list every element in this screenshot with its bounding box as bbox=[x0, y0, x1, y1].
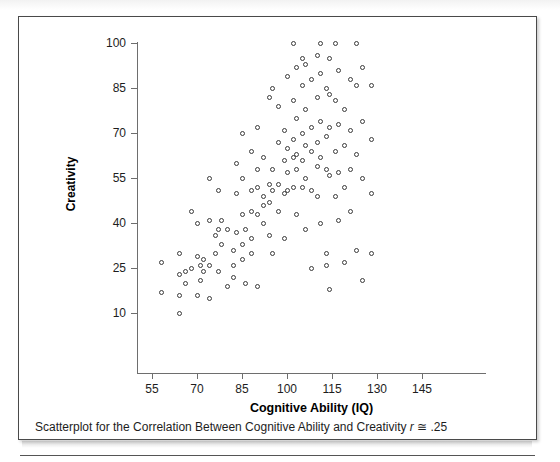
data-point bbox=[336, 218, 341, 223]
data-point bbox=[267, 233, 272, 238]
page-divider-rule bbox=[20, 455, 535, 456]
data-point bbox=[354, 83, 359, 88]
data-point bbox=[336, 170, 341, 175]
data-point bbox=[282, 236, 287, 241]
data-point bbox=[300, 185, 305, 190]
data-point bbox=[291, 98, 296, 103]
data-point bbox=[303, 62, 308, 67]
y-axis-line bbox=[137, 42, 138, 374]
x-tick-85 bbox=[242, 373, 243, 379]
y-tick-label-55: 55 bbox=[113, 171, 126, 186]
data-point bbox=[177, 251, 182, 256]
data-point bbox=[231, 263, 236, 268]
data-point bbox=[207, 263, 212, 268]
page-top-band bbox=[0, 0, 560, 10]
y-tick-label-25: 25 bbox=[113, 261, 126, 276]
data-point bbox=[267, 200, 272, 205]
x-tick-115 bbox=[332, 373, 333, 379]
x-tick-100 bbox=[287, 373, 288, 379]
data-point bbox=[354, 248, 359, 253]
data-point bbox=[216, 269, 221, 274]
data-point bbox=[270, 188, 275, 193]
data-point bbox=[249, 209, 254, 214]
data-point bbox=[348, 77, 353, 82]
data-point bbox=[327, 56, 332, 61]
data-point bbox=[285, 74, 290, 79]
caption-text: Scatterplot for the Correlation Between … bbox=[35, 420, 410, 434]
data-point bbox=[300, 56, 305, 61]
data-point bbox=[177, 272, 182, 277]
data-point bbox=[195, 293, 200, 298]
data-point bbox=[177, 293, 182, 298]
data-point bbox=[201, 269, 206, 274]
data-point bbox=[216, 188, 221, 193]
data-point bbox=[276, 182, 281, 187]
data-point bbox=[240, 212, 245, 217]
data-point bbox=[219, 218, 224, 223]
x-tick-55 bbox=[152, 373, 153, 379]
x-axis-line bbox=[137, 373, 486, 374]
data-point bbox=[294, 152, 299, 157]
data-point bbox=[324, 251, 329, 256]
x-tick-145 bbox=[422, 373, 423, 379]
data-point bbox=[231, 248, 236, 253]
data-point bbox=[240, 176, 245, 181]
caption-approx-symbol: ≅ bbox=[414, 420, 431, 434]
data-point bbox=[213, 233, 218, 238]
data-point bbox=[267, 95, 272, 100]
data-point bbox=[249, 188, 254, 193]
figure-page: 102540557085100 557085100115130145 Creat… bbox=[0, 0, 560, 462]
figure-caption: Scatterplot for the Correlation Between … bbox=[35, 418, 525, 436]
x-axis-title: Cognitive Ability (IQ) bbox=[137, 401, 486, 415]
data-point bbox=[207, 176, 212, 181]
data-point bbox=[360, 65, 365, 70]
data-point bbox=[360, 119, 365, 124]
data-point bbox=[291, 185, 296, 190]
data-point bbox=[327, 125, 332, 130]
y-tick-label-10: 10 bbox=[113, 306, 126, 321]
scatterplot: 102540557085100 557085100115130145 Creat… bbox=[19, 17, 538, 441]
data-point bbox=[336, 68, 341, 73]
data-point bbox=[315, 194, 320, 199]
data-point bbox=[240, 242, 245, 247]
x-tick-130 bbox=[377, 373, 378, 379]
data-point bbox=[207, 218, 212, 223]
data-point bbox=[327, 173, 332, 178]
y-tick-label-40: 40 bbox=[113, 216, 126, 231]
data-point bbox=[294, 65, 299, 70]
data-point bbox=[261, 203, 266, 208]
data-point bbox=[354, 152, 359, 157]
data-point bbox=[369, 251, 374, 256]
data-point bbox=[201, 257, 206, 262]
data-point bbox=[183, 269, 188, 274]
data-point bbox=[303, 176, 308, 181]
data-point bbox=[270, 86, 275, 91]
x-tick-70 bbox=[197, 373, 198, 379]
data-point bbox=[318, 41, 323, 46]
data-point bbox=[213, 251, 218, 256]
data-point bbox=[291, 137, 296, 142]
data-point bbox=[342, 107, 347, 112]
data-point bbox=[303, 143, 308, 148]
data-point bbox=[270, 251, 275, 256]
data-point bbox=[348, 167, 353, 172]
data-point bbox=[276, 209, 281, 214]
data-point bbox=[294, 212, 299, 217]
y-axis-title: Creativity bbox=[64, 124, 78, 244]
data-point bbox=[189, 266, 194, 271]
x-tick-label-130: 130 bbox=[367, 382, 387, 397]
data-point bbox=[324, 86, 329, 91]
data-point bbox=[255, 185, 260, 190]
data-point bbox=[333, 41, 338, 46]
data-point bbox=[315, 95, 320, 100]
data-point bbox=[309, 149, 314, 154]
data-point bbox=[369, 191, 374, 196]
data-point bbox=[234, 161, 239, 166]
data-point bbox=[282, 158, 287, 163]
data-point bbox=[225, 284, 230, 289]
data-point bbox=[354, 41, 359, 46]
data-point bbox=[333, 194, 338, 199]
data-point bbox=[261, 194, 266, 199]
data-point bbox=[315, 140, 320, 145]
caption-r-value: .25 bbox=[431, 420, 448, 434]
